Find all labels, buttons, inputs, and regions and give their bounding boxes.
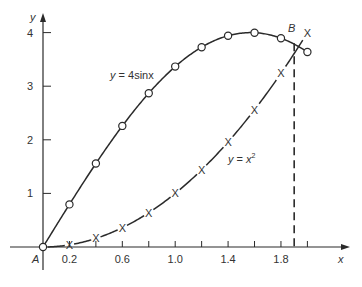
x-marker-icon: X [145, 207, 153, 219]
circle-marker-icon [92, 160, 99, 167]
x-axis-label: x [337, 253, 344, 265]
point-a-label: A [31, 253, 39, 265]
circle-marker-icon [119, 122, 126, 129]
circle-marker-icon [251, 29, 258, 36]
square-curve-segment [153, 197, 170, 210]
square-curve-segment [259, 80, 276, 104]
y-tick-label: 2 [27, 134, 33, 146]
x-marker-icon: X [224, 136, 232, 148]
equation-square-exponent: 2 [252, 152, 256, 159]
x-marker-icon: X [92, 232, 100, 244]
y-tick-label: 4 [27, 27, 33, 39]
circle-marker-icon [198, 44, 205, 51]
x-marker-icon: X [172, 187, 180, 199]
y-tick-label: 3 [27, 80, 33, 92]
x-tick-label: 1.4 [220, 253, 235, 265]
circle-marker-icon [66, 201, 73, 208]
point-b-label: B [288, 22, 295, 34]
square-curve-segment [180, 174, 197, 189]
circle-marker-icon [277, 35, 284, 42]
chart: 0.20.61.01.41.81234 XXXXXXXXXX y x A B y… [0, 0, 362, 287]
square-curve-segment [101, 230, 118, 237]
x-axis-arrow-icon [341, 244, 350, 250]
x-marker-icon: X [198, 164, 206, 176]
equation-sin-text: = 4sinx [116, 69, 155, 81]
x-marker-icon: X [251, 104, 259, 116]
circle-marker-icon [224, 32, 231, 39]
series-x-squared: XXXXXXXXXX [48, 27, 312, 251]
x-marker-icon: X [277, 67, 285, 79]
circle-marker-icon [172, 63, 179, 70]
x-tick-label: 1.8 [273, 253, 288, 265]
y-axis-label: y [29, 11, 37, 23]
x-marker-icon: X [119, 222, 127, 234]
circle-marker-icon [304, 48, 311, 55]
y-axis-arrow-icon [40, 13, 46, 22]
square-curve-segment [233, 116, 250, 137]
x-tick-label: 0.2 [62, 253, 77, 265]
axes: 0.20.61.01.41.81234 [10, 13, 350, 270]
square-curve-segment [74, 240, 91, 244]
square-curve-segment [206, 147, 223, 165]
series-4sinx [39, 29, 311, 250]
x-tick-label: 0.6 [115, 253, 130, 265]
circle-marker-icon [39, 243, 46, 250]
x-marker-icon: X [66, 239, 74, 251]
x-marker-icon: X [304, 27, 312, 39]
y-tick-label: 1 [27, 187, 33, 199]
equation-sin-label: y = 4sinx [109, 69, 154, 81]
x-tick-label: 1.0 [168, 253, 183, 265]
square-curve-segment [127, 216, 144, 226]
circle-marker-icon [145, 90, 152, 97]
equation-square-label: y = x2 [227, 152, 256, 165]
